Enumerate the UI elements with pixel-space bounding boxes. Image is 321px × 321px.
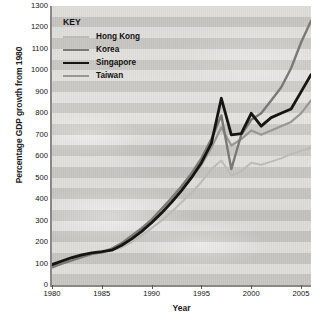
y-tick-label: 800 bbox=[8, 109, 48, 117]
legend-color-swatch bbox=[63, 75, 89, 77]
legend-item: Singapore bbox=[62, 56, 170, 69]
legend-item: Taiwan bbox=[62, 69, 170, 82]
series-line-singapore bbox=[52, 75, 311, 265]
legend: KEY Hong KongKoreaSingaporeTaiwan bbox=[56, 12, 174, 82]
x-tick-label: 1980 bbox=[32, 289, 72, 298]
legend-title: KEY bbox=[63, 17, 170, 27]
y-axis-ticks: 0100200300400500600700800900100011001200… bbox=[4, 0, 48, 321]
legend-item-label: Singapore bbox=[96, 58, 136, 67]
y-tick-label: 100 bbox=[8, 260, 48, 268]
y-tick-label: 1000 bbox=[8, 66, 48, 74]
x-tick-label: 1990 bbox=[132, 289, 172, 298]
legend-color-swatch bbox=[63, 49, 89, 51]
legend-color-swatch bbox=[63, 62, 89, 64]
y-tick-label: 1300 bbox=[8, 2, 48, 10]
x-tick-mark bbox=[102, 285, 103, 289]
series-line-hong-kong bbox=[52, 148, 311, 266]
x-tick-mark bbox=[52, 285, 53, 289]
x-tick-label: 2005 bbox=[281, 289, 321, 298]
y-tick-label: 900 bbox=[8, 88, 48, 96]
series-line-taiwan bbox=[52, 100, 311, 266]
y-tick-label: 1200 bbox=[8, 23, 48, 31]
x-tick-label: 1985 bbox=[82, 289, 122, 298]
y-tick-label: 400 bbox=[8, 195, 48, 203]
legend-item-label: Korea bbox=[96, 45, 119, 54]
axis-bottom bbox=[50, 285, 311, 287]
y-tick-label: 300 bbox=[8, 217, 48, 225]
y-tick-label: 700 bbox=[8, 131, 48, 139]
legend-color-swatch bbox=[63, 36, 89, 38]
x-axis-title: Year bbox=[52, 303, 311, 313]
y-tick-label: 200 bbox=[8, 238, 48, 246]
legend-item: Hong Kong bbox=[62, 30, 170, 43]
y-tick-label: 1100 bbox=[8, 45, 48, 53]
legend-item: Korea bbox=[62, 43, 170, 56]
x-tick-mark bbox=[251, 285, 252, 289]
axis-left bbox=[50, 6, 52, 287]
legend-item-label: Taiwan bbox=[96, 71, 123, 80]
x-tick-mark bbox=[301, 285, 302, 289]
y-tick-label: 500 bbox=[8, 174, 48, 182]
x-tick-mark bbox=[152, 285, 153, 289]
y-tick-label: 600 bbox=[8, 152, 48, 160]
x-tick-mark bbox=[201, 285, 202, 289]
legend-item-label: Hong Kong bbox=[96, 32, 140, 41]
x-tick-label: 1995 bbox=[181, 289, 221, 298]
legend-entries: Hong KongKoreaSingaporeTaiwan bbox=[62, 30, 170, 82]
y-tick-label: 0 bbox=[8, 281, 48, 289]
x-tick-label: 2000 bbox=[231, 289, 271, 298]
gdp-growth-line-chart: Percentage GDP growth from 1980 01002003… bbox=[0, 0, 321, 321]
